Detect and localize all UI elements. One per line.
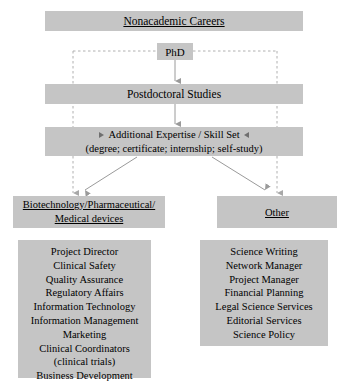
- list-item: (clinical trials): [54, 355, 116, 369]
- node-expertise-sublabel: (degree; certificate; internship; self-s…: [86, 142, 263, 156]
- list-item: Information Management: [31, 314, 139, 328]
- page-title: Nonacademic Careers: [123, 15, 224, 27]
- node-additional-expertise: Additional Expertise / Skill Set (degree…: [45, 127, 303, 156]
- branch-header-other: Other: [217, 196, 337, 228]
- list-item: Network Manager: [226, 259, 303, 273]
- branch-header-line-1: Biotechnology/Pharmaceutical/: [23, 198, 155, 212]
- node-phd-label: PhD: [165, 46, 185, 58]
- list-item: Editorial Services: [227, 314, 302, 328]
- branch-header-biotechnology: Biotechnology/Pharmaceutical/ Medical de…: [13, 196, 165, 228]
- list-item: Clinical Coordinators: [39, 342, 130, 356]
- list-item: Science Writing: [230, 245, 297, 259]
- list-item: Information Technology: [33, 300, 135, 314]
- arrow-right-icon: [99, 132, 104, 138]
- connector-expertise-to-left-branch: [85, 157, 137, 190]
- list-item: Business Development: [36, 369, 133, 383]
- node-phd: PhD: [157, 43, 193, 60]
- list-item: Clinical Safety: [53, 259, 116, 273]
- list-item: Quality Assurance: [46, 273, 123, 287]
- diagram-title-banner: Nonacademic Careers: [45, 11, 303, 31]
- list-item: Regulatory Affairs: [45, 286, 123, 300]
- list-item: Legal Science Services: [215, 300, 312, 314]
- list-item: Project Director: [51, 245, 118, 259]
- expertise-primary-line: Additional Expertise / Skill Set: [99, 128, 248, 142]
- branch-header-line-2: Medical devices: [55, 212, 124, 226]
- list-item: Marketing: [63, 328, 107, 342]
- career-list-other: Science Writing Network Manager Project …: [200, 240, 328, 346]
- arrow-left-icon: [244, 132, 249, 138]
- branch-header-line-1: Other: [265, 207, 289, 218]
- connector-expertise-to-right-branch: [212, 157, 265, 190]
- list-item: Financial Planning: [224, 286, 303, 300]
- diagram-canvas: Nonacademic Careers PhD Postdoctoral Stu…: [0, 0, 351, 384]
- node-postdoctoral-label: Postdoctoral Studies: [127, 88, 221, 100]
- node-postdoctoral-studies: Postdoctoral Studies: [45, 84, 303, 104]
- node-expertise-label: Additional Expertise / Skill Set: [108, 128, 239, 142]
- list-item: Project Manager: [229, 273, 299, 287]
- list-item: Science Policy: [233, 328, 295, 342]
- career-list-biotechnology: Project Director Clinical Safety Quality…: [18, 240, 151, 378]
